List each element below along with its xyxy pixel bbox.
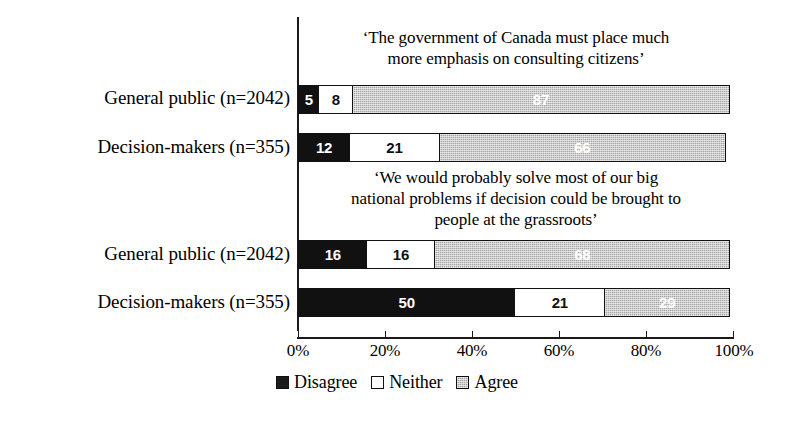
bar-segment-value: 50 <box>399 294 415 311</box>
legend-swatch-disagree-icon <box>276 376 289 389</box>
bar-row: 16 16 68 <box>298 240 733 269</box>
row-label-3: Decision-makers (n=355) <box>0 291 290 313</box>
bar-segment-neither[interactable]: 21 <box>349 133 440 162</box>
x-axis-line <box>297 337 734 339</box>
bar-segment-agree[interactable]: 29 <box>604 288 730 317</box>
question-caption-2-line-1: ‘We would probably solve most of our big <box>300 167 732 188</box>
question-caption-1-line-1: ‘The government of Canada must place muc… <box>300 27 732 48</box>
bar-segment-disagree[interactable]: 16 <box>298 240 368 269</box>
legend-swatch-neither-icon <box>371 376 384 389</box>
question-caption-2-line-2: national problems if decision could be b… <box>300 188 732 209</box>
bar-segment-value: 21 <box>552 294 568 311</box>
legend-item-disagree[interactable]: Disagree <box>276 372 357 393</box>
legend-item-neither[interactable]: Neither <box>371 372 442 393</box>
legend-swatch-agree-icon <box>456 376 469 389</box>
chart-legend: Disagree Neither Agree <box>0 372 794 393</box>
bar-segment-neither[interactable]: 16 <box>366 240 436 269</box>
stacked-bar-chart: ‘The government of Canada must place muc… <box>0 0 794 421</box>
x-axis-tick-label-20: 20% <box>350 341 420 361</box>
bar-segment-agree[interactable]: 66 <box>439 133 726 162</box>
x-axis-tick-20 <box>385 331 386 338</box>
x-axis-tick-0 <box>298 331 299 338</box>
row-label-1: Decision-makers (n=355) <box>0 136 290 158</box>
bar-segment-value: 16 <box>393 246 409 263</box>
bar-row: 5 8 87 <box>298 85 733 114</box>
question-caption-1-line-2: more emphasis on consulting citizens’ <box>300 48 732 69</box>
x-axis-tick-80 <box>646 331 647 338</box>
bar-segment-disagree[interactable]: 50 <box>298 288 516 317</box>
bar-row: 12 21 66 <box>298 133 733 162</box>
bar-row: 50 21 29 <box>298 288 733 317</box>
bar-segment-value: 16 <box>325 246 341 263</box>
x-axis-tick-60 <box>559 331 560 338</box>
x-axis-tick-label-0: 0% <box>263 341 333 361</box>
legend-item-agree[interactable]: Agree <box>456 372 517 393</box>
x-axis-tick-label-60: 60% <box>524 341 594 361</box>
bar-segment-neither[interactable]: 21 <box>514 288 605 317</box>
question-caption-1: ‘The government of Canada must place muc… <box>300 27 732 69</box>
x-axis-tick-label-40: 40% <box>437 341 507 361</box>
bar-segment-value: 29 <box>659 294 675 311</box>
row-label-0: General public (n=2042) <box>0 87 290 109</box>
bar-segment-value: 8 <box>332 91 340 108</box>
bar-segment-value: 12 <box>316 139 332 156</box>
row-label-2: General public (n=2042) <box>0 243 290 265</box>
bar-segment-value: 21 <box>386 139 402 156</box>
legend-label-agree: Agree <box>474 372 517 393</box>
legend-label-neither: Neither <box>389 372 442 393</box>
question-caption-2-line-3: people at the grassroots’ <box>300 209 732 230</box>
legend-label-disagree: Disagree <box>294 372 357 393</box>
x-axis-tick-100 <box>733 331 734 338</box>
bar-segment-value: 87 <box>533 91 549 108</box>
x-axis-tick-40 <box>472 331 473 338</box>
bar-segment-disagree[interactable]: 5 <box>298 85 320 114</box>
x-axis-tick-label-80: 80% <box>611 341 681 361</box>
bar-segment-disagree[interactable]: 12 <box>298 133 350 162</box>
bar-segment-neither[interactable]: 8 <box>318 85 353 114</box>
bar-segment-value: 68 <box>574 246 590 263</box>
bar-segment-value: 66 <box>574 139 590 156</box>
x-axis-tick-label-100: 100% <box>699 341 769 361</box>
bar-segment-value: 5 <box>305 91 313 108</box>
bar-segment-agree[interactable]: 68 <box>434 240 730 269</box>
y-axis-line <box>297 17 299 331</box>
bar-segment-agree[interactable]: 87 <box>352 85 730 114</box>
question-caption-2: ‘We would probably solve most of our big… <box>300 167 732 230</box>
